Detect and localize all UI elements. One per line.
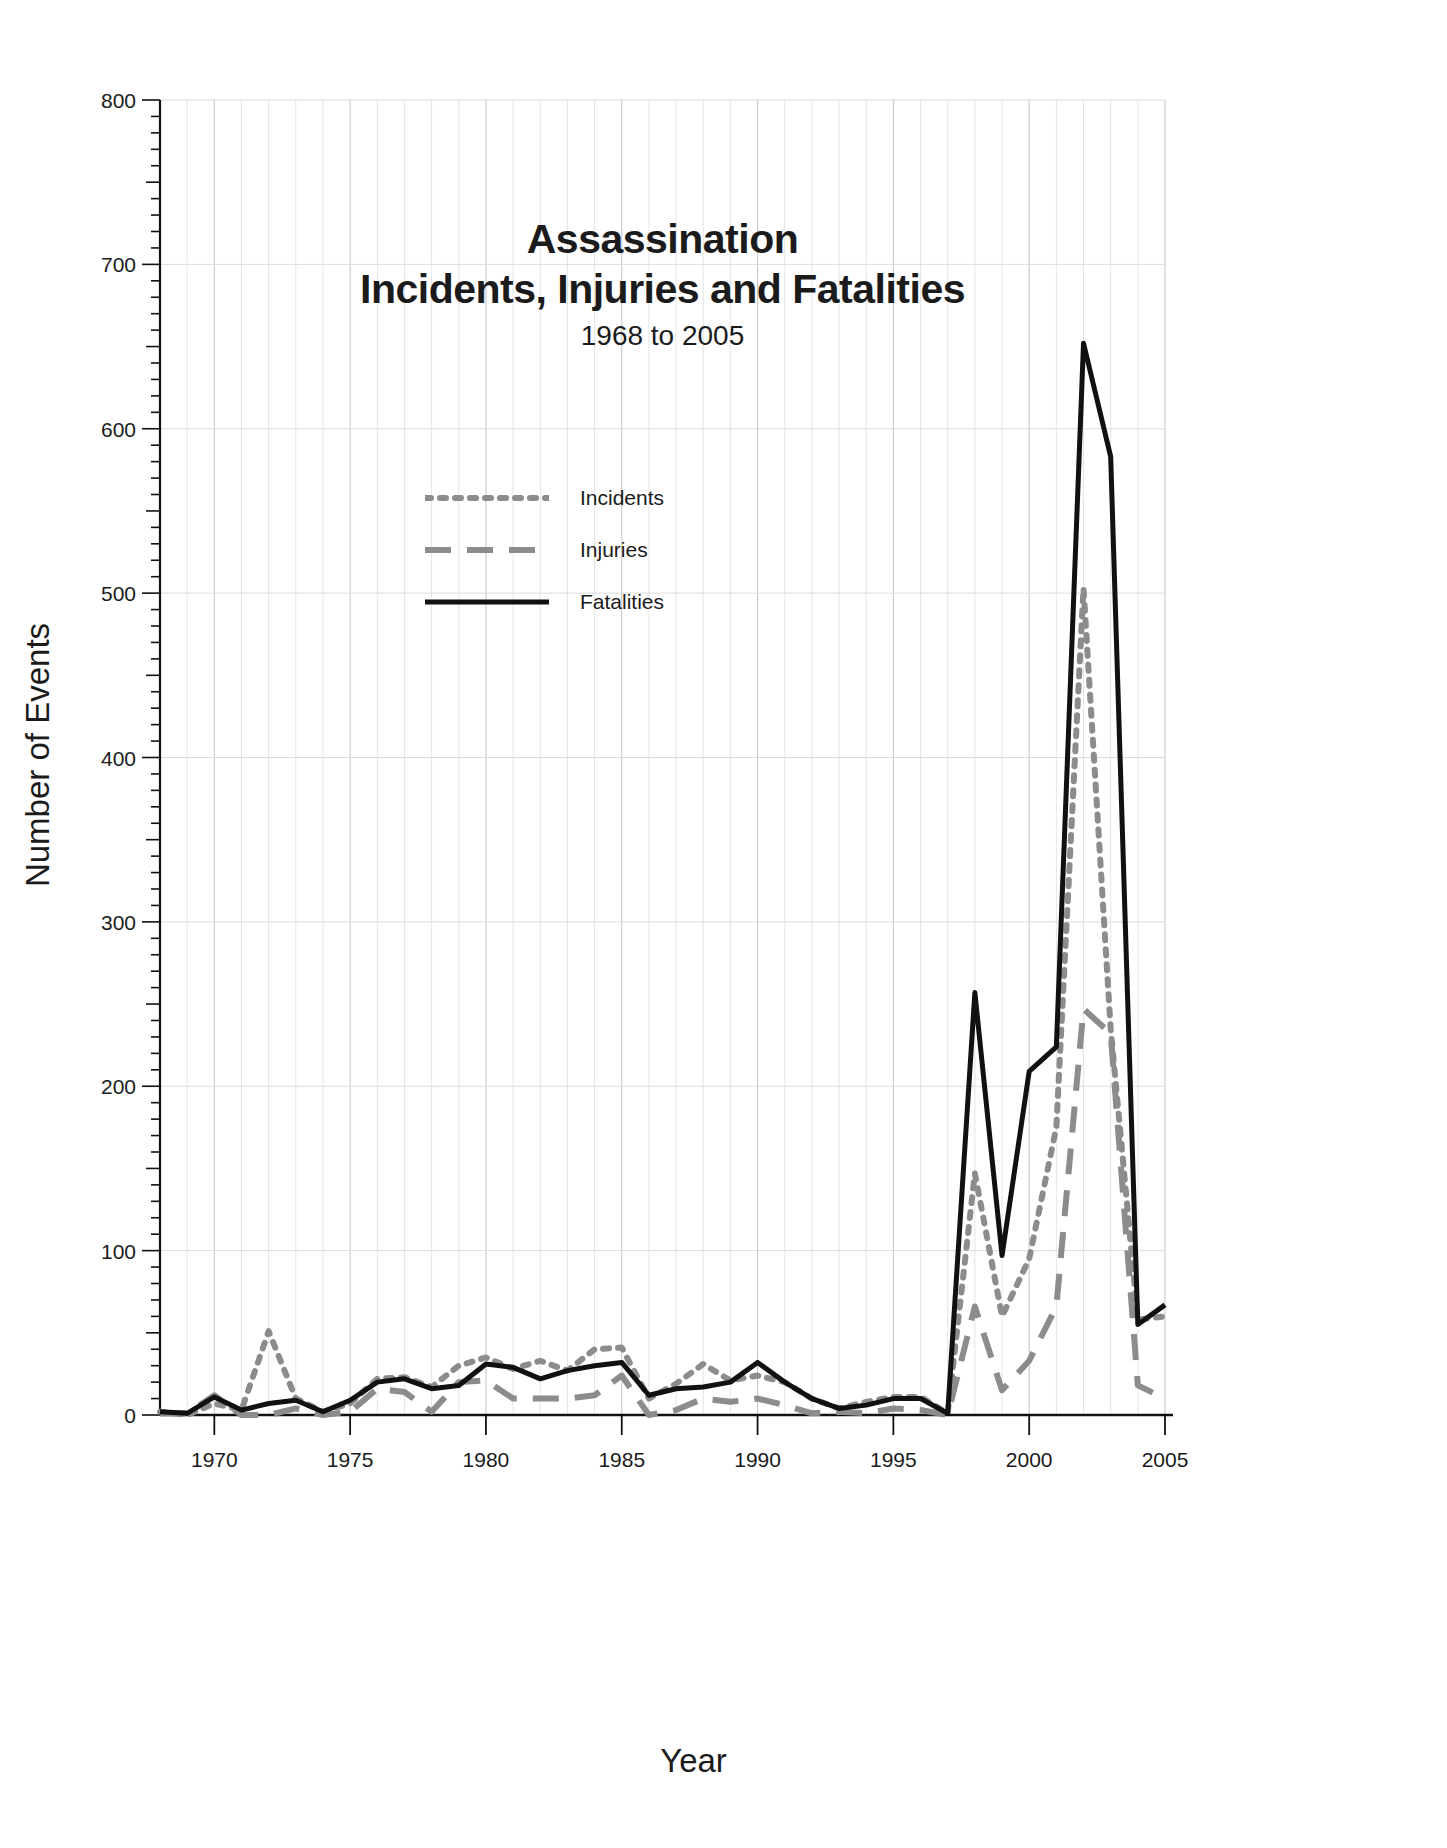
legend-item-incidents: Incidents — [425, 472, 664, 524]
y-axis-tick-label: 100 — [101, 1240, 136, 1263]
legend-swatch-fatalities — [425, 595, 549, 609]
x-axis-tick-label: 1985 — [598, 1448, 645, 1471]
y-axis-tick-label: 700 — [101, 253, 136, 276]
legend-item-fatalities: Fatalities — [425, 576, 664, 628]
y-axis-tick-label: 200 — [101, 1075, 136, 1098]
x-axis-tick-label: 1970 — [191, 1448, 238, 1471]
legend-label-injuries: Injuries — [580, 538, 648, 562]
series-line-injuries — [160, 1009, 1165, 1415]
x-axis-tick-label: 1990 — [734, 1448, 781, 1471]
legend-label-incidents: Incidents — [580, 486, 664, 510]
legend-swatch-incidents — [425, 491, 549, 505]
x-axis-title: Year — [0, 1742, 1447, 1780]
y-axis-tick-label: 800 — [101, 89, 136, 112]
x-axis-tick-label: 1980 — [463, 1448, 510, 1471]
x-axis-tick-label: 1975 — [327, 1448, 374, 1471]
x-axis-tick-label: 1995 — [870, 1448, 917, 1471]
x-axis-tick-label: 2000 — [1006, 1448, 1053, 1471]
x-axis-tick-label: 2005 — [1142, 1448, 1189, 1471]
y-axis-tick-label: 500 — [101, 582, 136, 605]
y-axis-tick-label: 400 — [101, 747, 136, 770]
y-axis-tick-label: 0 — [124, 1404, 136, 1427]
legend-swatch-injuries — [425, 543, 549, 557]
series-line-incidents — [160, 588, 1165, 1415]
y-axis-tick-label: 300 — [101, 911, 136, 934]
legend-item-injuries: Injuries — [425, 524, 664, 576]
legend-label-fatalities: Fatalities — [580, 590, 664, 614]
line-chart: 0100200300400500600700800197019751980198… — [0, 0, 1447, 1848]
y-axis-tick-label: 600 — [101, 418, 136, 441]
chart-legend: Incidents Injuries Fatalities — [425, 472, 664, 628]
chart-page: Number of Events 01002003004005006007008… — [0, 0, 1447, 1848]
